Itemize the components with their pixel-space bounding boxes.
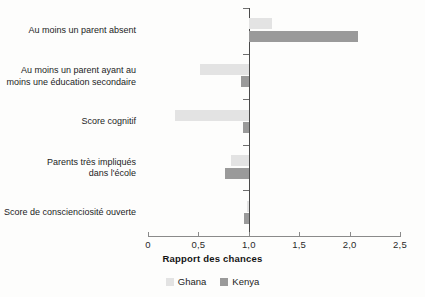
bar-kenya — [249, 31, 358, 42]
x-tick-mark — [400, 232, 401, 237]
legend-swatch-icon — [166, 278, 174, 286]
category-label-line: Au moins un parent absent — [2, 25, 136, 37]
category-label-line: Parents très impliqués — [2, 156, 136, 168]
legend-label: Ghana — [178, 276, 207, 287]
bar-ghana — [175, 110, 249, 121]
category-label: Au moins un parent absent — [2, 25, 136, 37]
x-tick-mark — [299, 232, 300, 237]
category-label-line: Score cognitif — [2, 116, 136, 128]
legend-swatch-icon — [220, 278, 228, 286]
category-label-line: moins une éducation secondaire — [2, 76, 136, 88]
x-axis-title: Rapport des chances — [0, 253, 425, 264]
category-label: Au moins un parent ayant aumoins une édu… — [2, 65, 136, 88]
category-label: Parents très impliquésdans l'école — [2, 156, 136, 179]
legend-item: Ghana — [166, 276, 207, 287]
x-tick-mark — [350, 232, 351, 237]
bar-ghana — [200, 64, 248, 75]
category-label: Score cognitif — [2, 116, 136, 128]
category-label-line: dans l'école — [2, 168, 136, 180]
legend-label: Kenya — [232, 276, 259, 287]
bar-kenya — [244, 213, 249, 224]
x-tick-mark — [148, 232, 149, 237]
category-label: Score de conscienciosité ouverte — [2, 207, 136, 219]
category-label-line: Au moins un parent ayant au — [2, 65, 136, 77]
bar-ghana — [249, 18, 272, 29]
bar-kenya — [225, 168, 249, 179]
bar-ghana — [247, 201, 249, 212]
x-tick-label: 2,5 — [393, 239, 407, 250]
x-tick-label: 1,5 — [292, 239, 306, 250]
bar-kenya — [243, 122, 249, 133]
x-tick-label: 1,0 — [242, 239, 256, 250]
category-label-line: Score de conscienciosité ouverte — [2, 207, 136, 219]
odds-ratio-bar-chart: Au moins un parent absentAu moins un par… — [0, 0, 425, 297]
chart-legend: GhanaKenya — [0, 276, 425, 287]
x-tick-mark — [198, 232, 199, 237]
bar-ghana — [231, 155, 249, 166]
x-axis-line — [148, 236, 400, 237]
x-tick-mark — [249, 232, 250, 237]
plot-area — [148, 8, 400, 236]
reference-line-at-one — [249, 8, 250, 236]
x-tick-label: 2,0 — [343, 239, 357, 250]
legend-item: Kenya — [220, 276, 259, 287]
x-tick-label: 0 — [145, 239, 150, 250]
x-tick-label: 0,5 — [191, 239, 205, 250]
bar-kenya — [241, 76, 249, 87]
